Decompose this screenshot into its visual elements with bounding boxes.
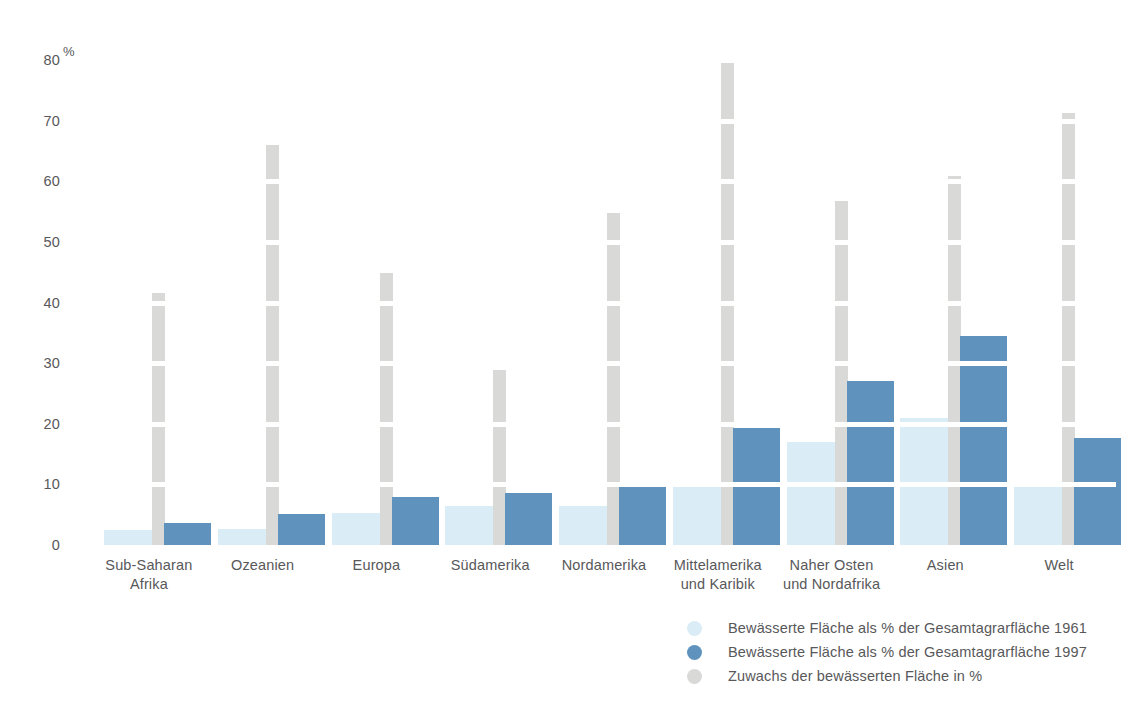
bar-1961: [787, 442, 837, 545]
y-axis-tick-50: 50: [14, 234, 60, 250]
legend-swatch-icon: [687, 645, 702, 660]
y-axis-tick-70: 70: [14, 113, 60, 129]
bar-1997: [960, 336, 1007, 545]
bar-1997: [619, 486, 666, 545]
bar-group: [559, 60, 673, 545]
x-axis-label-line2: und Nordafrika: [753, 575, 911, 594]
legend-item-0: Bewässerte Fläche als % der Gesamtagrarf…: [687, 616, 1087, 640]
chart-legend: Bewässerte Fläche als % der Gesamtagrarf…: [687, 616, 1087, 688]
bar-group: [104, 60, 218, 545]
y-axis-tick-60: 60: [14, 173, 60, 189]
bar-1997: [278, 514, 325, 545]
bar-1961: [104, 530, 154, 545]
legend-swatch-icon: [687, 621, 702, 636]
bar-growth: [152, 293, 165, 545]
y-axis-unit-label: %: [63, 44, 75, 59]
bar-1961: [559, 506, 609, 545]
legend-label: Zuwachs der bewässerten Fläche in %: [728, 668, 982, 684]
x-axis-label-8: Welt: [980, 556, 1136, 575]
bar-1997: [847, 381, 894, 545]
bar-group: [445, 60, 559, 545]
bar-group: [1014, 60, 1128, 545]
y-axis-tick-0: 0: [14, 537, 60, 553]
legend-item-1: Bewässerte Fläche als % der Gesamtagrarf…: [687, 640, 1087, 664]
bar-group: [673, 60, 787, 545]
bar-1961: [218, 529, 268, 545]
bar-1961: [332, 513, 382, 545]
x-axis-label-line2: Afrika: [70, 575, 228, 594]
legend-item-2: Zuwachs der bewässerten Fläche in %: [687, 664, 1087, 688]
bar-group: [900, 60, 1014, 545]
legend-label: Bewässerte Fläche als % der Gesamtagrarf…: [728, 620, 1087, 636]
bar-1961: [1014, 486, 1064, 545]
bar-1961: [900, 418, 950, 545]
bar-group: [787, 60, 901, 545]
y-axis-tick-30: 30: [14, 355, 60, 371]
y-axis-tick-20: 20: [14, 416, 60, 432]
bar-group: [332, 60, 446, 545]
bar-growth: [266, 145, 279, 545]
chart-container: % 01020304050607080 Sub-SaharanAfrikaOze…: [0, 0, 1136, 721]
x-axis-label-line1: Welt: [980, 556, 1136, 575]
y-axis-tick-10: 10: [14, 476, 60, 492]
plot-area: [92, 60, 1116, 545]
bar-1961: [445, 506, 495, 545]
bar-group: [218, 60, 332, 545]
y-axis-tick-80: 80: [14, 52, 60, 68]
y-axis-tick-40: 40: [14, 295, 60, 311]
legend-label: Bewässerte Fläche als % der Gesamtagrarf…: [728, 644, 1087, 660]
bar-1997: [505, 493, 552, 545]
bar-1961: [673, 486, 723, 545]
bar-1997: [392, 497, 439, 545]
legend-swatch-icon: [687, 669, 702, 684]
bar-1997: [1074, 438, 1121, 545]
bar-1997: [733, 428, 780, 545]
bar-1997: [164, 523, 211, 545]
